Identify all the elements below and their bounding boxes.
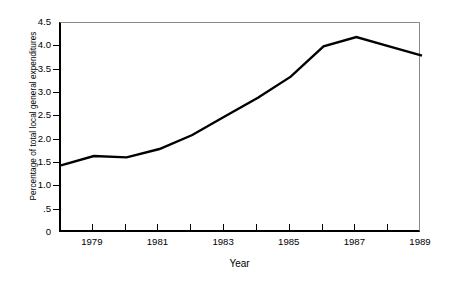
x-tick-mark [289,224,290,232]
x-tick-mark [354,224,355,232]
y-tick-label: .5 [5,204,51,214]
y-tick-label: 3.5 [5,64,51,74]
y-tick-label: 2.0 [5,134,51,144]
y-tick-label: 3.0 [5,87,51,97]
x-tick-label: 1979 [62,236,122,248]
x-tick-label: 1983 [193,236,253,248]
x-tick-label: 1985 [259,236,319,248]
y-tick-label: 0 [5,227,51,237]
x-tick-mark [322,224,323,232]
x-tick-mark [256,224,257,232]
x-tick-label: 1981 [127,236,187,248]
line-chart: Percentage of total local general expend… [0,0,454,287]
x-tick-mark [387,224,388,232]
y-axis-tick-labels: 4.54.03.53.02.52.01.51.0.50 [0,0,51,287]
x-tick-mark [92,224,93,232]
x-tick-mark [223,224,224,232]
x-tick-mark [157,224,158,232]
y-tick-label: 2.5 [5,110,51,120]
plot-area [59,22,420,232]
y-tick-label: 4.5 [5,17,51,27]
y-tick-label: 4.0 [5,40,51,50]
y-tick-label: 1.0 [5,180,51,190]
x-tick-label: 1987 [324,236,384,248]
series-line [59,22,424,236]
x-axis-title: Year [59,258,420,269]
x-tick-mark [125,224,126,232]
x-tick-label: 1989 [390,236,450,248]
x-tick-mark [190,224,191,232]
y-tick-label: 1.5 [5,157,51,167]
